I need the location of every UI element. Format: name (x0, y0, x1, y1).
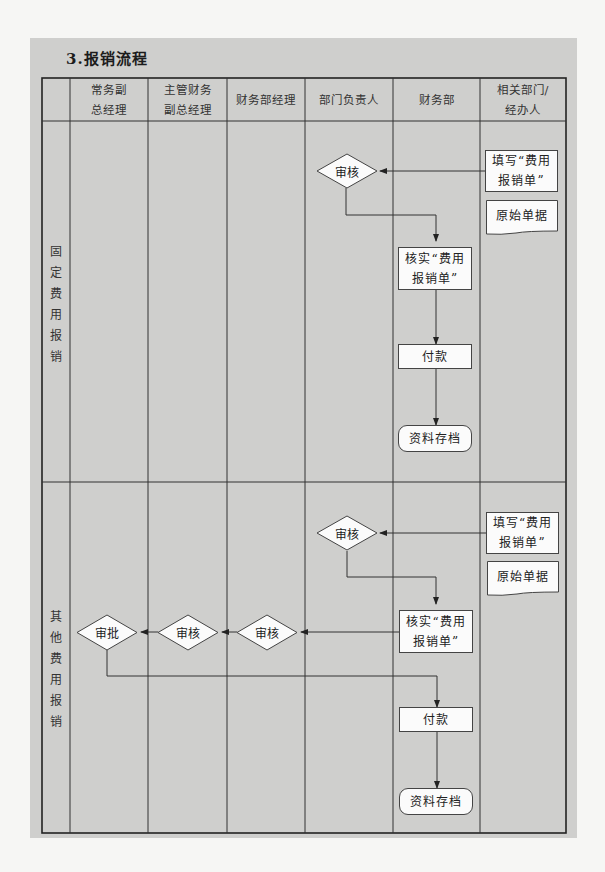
node-archive[interactable]: 资料存档 (399, 788, 473, 815)
node-fill-form[interactable]: 填写“费用 报销单” (485, 150, 558, 192)
node-verify-form[interactable]: 核实“费用 报销单” (399, 610, 473, 653)
swimlane-grid (0, 0, 605, 872)
node-label: 原始单据 (486, 206, 558, 223)
node-original-docs[interactable]: 原始单据 (487, 561, 559, 597)
node-label: 审核 (236, 614, 298, 651)
node-payment[interactable]: 付款 (398, 344, 472, 369)
node-fill-form[interactable]: 填写“费用 报销单” (486, 512, 559, 554)
header-exec-vp: 常务副 总经理 (70, 80, 148, 120)
node-label: 审核 (316, 153, 378, 189)
node-label: 审核 (316, 515, 378, 551)
header-finance-manager: 财务部经理 (227, 80, 305, 120)
node-dept-head-review[interactable]: 审核 (316, 153, 378, 189)
header-finance-vp: 主管财务 副总经理 (148, 80, 227, 120)
node-label: 原始单据 (487, 567, 559, 584)
header-related-dept: 相关部门/ 经办人 (480, 80, 566, 120)
node-original-docs[interactable]: 原始单据 (486, 200, 558, 236)
node-label: 审核 (157, 614, 219, 651)
node-exec-vp-approve[interactable]: 审批 (76, 614, 138, 651)
header-dept-head: 部门负责人 (305, 80, 393, 120)
node-verify-form[interactable]: 核实“费用 报销单” (398, 247, 472, 290)
node-archive[interactable]: 资料存档 (398, 425, 472, 452)
header-finance-dept: 财务部 (393, 80, 480, 120)
node-finance-vp-review[interactable]: 审核 (157, 614, 219, 651)
node-payment[interactable]: 付款 (399, 707, 473, 732)
section-label-other-expense: 其 他 费 用 报 销 (42, 607, 70, 733)
node-dept-head-review[interactable]: 审核 (316, 515, 378, 551)
node-label: 审批 (76, 614, 138, 651)
header-corner (42, 78, 70, 121)
node-finance-manager-review[interactable]: 审核 (236, 614, 298, 651)
section-label-fixed-expense: 固 定 费 用 报 销 (42, 242, 70, 368)
